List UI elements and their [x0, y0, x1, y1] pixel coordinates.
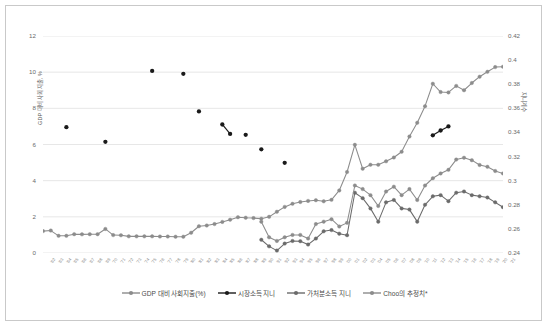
- right-tick-label: 0.34: [508, 128, 534, 135]
- x-tick-label: '96: [314, 257, 321, 264]
- legend-label: Choo의 추정치*: [383, 288, 427, 298]
- left-tick-label: 8: [14, 104, 36, 111]
- x-tick-label: '06: [392, 257, 399, 264]
- left-tick-label: 4: [14, 177, 36, 184]
- x-tick-label: '01: [353, 257, 360, 264]
- x-tick-label: '91: [275, 257, 282, 264]
- x-tick-label: '17: [478, 257, 485, 264]
- chart-frame: GDP 대비 사회지출, % 지니계수 '62'63'64'65'66'67'6…: [5, 5, 542, 321]
- x-tick-label: '70: [111, 257, 118, 264]
- x-tick-label: '78: [174, 257, 181, 264]
- x-tick-label: '02: [361, 257, 368, 264]
- x-tick-label: '88: [252, 257, 259, 264]
- x-tick-label: '81: [197, 257, 204, 264]
- x-tick-label: '15: [462, 257, 469, 264]
- right-tick-label: 0.38: [508, 80, 534, 87]
- x-tick-label: '63: [57, 257, 64, 264]
- legend-item[interactable]: 시장소득 지니: [218, 288, 276, 298]
- x-tick-label: '94: [299, 257, 306, 264]
- x-tick-label: '99: [338, 257, 345, 264]
- x-tick-label: '20: [501, 257, 508, 264]
- x-tick-label: '00: [345, 257, 352, 264]
- legend-item[interactable]: GDP 대비 사회지출(%): [122, 288, 206, 298]
- x-tick-label: '67: [88, 257, 95, 264]
- legend-label: 가처분소득 지니: [307, 288, 351, 298]
- right-axis-label: 지니계수: [520, 47, 528, 157]
- x-tick-label: '62: [49, 257, 56, 264]
- x-tick-label: '68: [96, 257, 103, 264]
- right-tick-label: 0.28: [508, 201, 534, 208]
- right-tick-label: 0.4: [508, 56, 534, 63]
- x-tick-label: '75: [150, 257, 157, 264]
- left-tick-label: 10: [14, 68, 36, 75]
- left-tick-label: 2: [14, 213, 36, 220]
- legend-marker-icon: [363, 289, 381, 297]
- x-tick-label: '71: [119, 257, 126, 264]
- right-tick-label: 0.24: [508, 249, 534, 256]
- x-tick-label: '80: [189, 257, 196, 264]
- chart-legend: GDP 대비 사회지출(%)시장소득 지니가처분소득 지니Choo의 추정치*: [6, 288, 543, 298]
- x-tick-label: '19: [494, 257, 501, 264]
- x-tick-label: '73: [135, 257, 142, 264]
- left-tick-label: 12: [14, 32, 36, 39]
- plot-area: [43, 36, 503, 253]
- x-tick-label: '77: [166, 257, 173, 264]
- left-tick-label: 6: [14, 141, 36, 148]
- x-tick-label: '87: [244, 257, 251, 264]
- x-tick-label: '12: [439, 257, 446, 264]
- x-tick-label: '04: [377, 257, 384, 264]
- left-tick-label: 0: [14, 249, 36, 256]
- right-tick-label: 0.32: [508, 153, 534, 160]
- x-tick-label: '14: [455, 257, 462, 264]
- x-tick-label: '92: [283, 257, 290, 264]
- right-tick-label: 0.42: [508, 32, 534, 39]
- x-tick-label: '21: [509, 257, 516, 264]
- x-tick-label: '90: [267, 257, 274, 264]
- x-tick-label: '82: [205, 257, 212, 264]
- x-tick-label: '09: [416, 257, 423, 264]
- x-tick-label: '05: [384, 257, 391, 264]
- x-axis-ticks: '62'63'64'65'66'67'68'69'70'71'72'73'74'…: [43, 255, 505, 283]
- x-tick-label: '76: [158, 257, 165, 264]
- x-tick-label: '11: [431, 257, 438, 264]
- legend-marker-icon: [218, 289, 236, 297]
- legend-item[interactable]: 가처분소득 지니: [287, 288, 351, 298]
- right-tick-label: 0.26: [508, 225, 534, 232]
- x-tick-label: '86: [236, 257, 243, 264]
- x-tick-label: '83: [213, 257, 220, 264]
- legend-label: GDP 대비 사회지출(%): [142, 288, 206, 298]
- x-tick-label: '95: [306, 257, 313, 264]
- legend-marker-icon: [122, 289, 140, 297]
- right-tick-label: 0.3: [508, 177, 534, 184]
- chart-svg: [43, 36, 503, 253]
- right-tick-label: 0.36: [508, 104, 534, 111]
- chart-plot-wrapper: GDP 대비 사회지출, % 지니계수 '62'63'64'65'66'67'6…: [6, 6, 543, 322]
- x-tick-label: '66: [80, 257, 87, 264]
- legend-marker-icon: [287, 289, 305, 297]
- x-tick-label: '72: [127, 257, 134, 264]
- x-tick-label: '97: [322, 257, 329, 264]
- x-tick-label: '65: [72, 257, 79, 264]
- x-tick-label: '16: [470, 257, 477, 264]
- legend-item[interactable]: Choo의 추정치*: [363, 288, 427, 298]
- x-tick-label: '07: [400, 257, 407, 264]
- x-tick-label: '85: [228, 257, 235, 264]
- legend-label: 시장소득 지니: [238, 288, 276, 298]
